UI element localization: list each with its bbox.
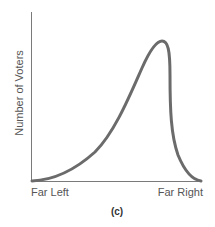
distribution-curve <box>32 41 201 181</box>
panel-label: (c) <box>111 206 123 217</box>
x-tick-far-right: Far Right <box>158 186 203 198</box>
x-tick-far-left: Far Left <box>31 186 69 198</box>
y-axis-label: Number of Voters <box>13 50 25 136</box>
chart: Number of Voters Far Left Far Right (c) <box>0 0 215 227</box>
